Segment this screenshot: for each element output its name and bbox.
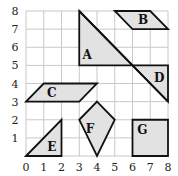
x-tick-label: 8 <box>165 161 172 174</box>
shape-label-d: D <box>154 71 164 85</box>
shape-c-parallelogram <box>26 84 97 102</box>
shape-label-a: A <box>82 48 93 62</box>
y-tick-label: 4 <box>12 78 19 91</box>
x-tick-label: 7 <box>147 161 154 174</box>
y-tick-label: 7 <box>12 23 19 36</box>
y-tick-label: 5 <box>12 59 19 72</box>
coordinate-grid-diagram: ABCDEFG 012345678 12345678 <box>0 0 178 176</box>
shape-label-b: B <box>138 13 148 27</box>
shape-label-g: G <box>137 123 147 137</box>
x-tick-label: 6 <box>129 161 136 174</box>
y-axis-ticks: 12345678 <box>12 5 19 145</box>
shape-f-kite <box>79 102 115 156</box>
y-tick-label: 6 <box>12 41 19 54</box>
x-tick-label: 4 <box>94 161 101 174</box>
shape-label-e: E <box>47 140 56 154</box>
x-tick-label: 1 <box>40 161 47 174</box>
x-tick-label: 3 <box>76 161 83 174</box>
x-tick-label: 2 <box>58 161 65 174</box>
x-axis-ticks: 012345678 <box>23 161 172 174</box>
x-tick-label: 5 <box>111 161 118 174</box>
y-tick-label: 1 <box>12 132 19 145</box>
y-tick-label: 8 <box>12 5 19 18</box>
x-tick-label: 0 <box>23 161 30 174</box>
shape-label-c: C <box>47 86 57 100</box>
y-tick-label: 3 <box>12 96 19 109</box>
shape-label-f: F <box>86 122 95 136</box>
y-tick-label: 2 <box>12 114 19 127</box>
